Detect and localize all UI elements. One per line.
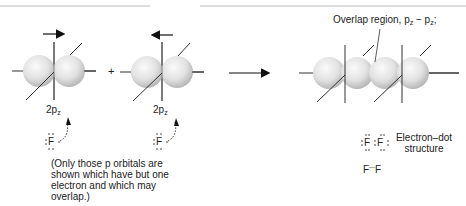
- atom-2-orbital: [120, 35, 204, 101]
- orbital-label-atom-2: 2pz: [153, 104, 168, 116]
- plus-sign: +: [108, 65, 114, 77]
- electron-dot-caption: Electron–dot structure: [394, 132, 454, 154]
- atom-1-orbital: [12, 34, 96, 100]
- note-line: (Only those p orbitals are: [51, 158, 181, 169]
- note-line: shown which have but one: [51, 169, 181, 180]
- electron-dot-f-right: F: [377, 137, 383, 148]
- orbital-label-atom-1: 2pz: [46, 104, 61, 116]
- overlap-leader-line: [375, 29, 380, 62]
- explanatory-note: (Only those p orbitals are shown which h…: [51, 158, 181, 202]
- molecule-overlap-orbitals: [299, 29, 459, 103]
- overlap-region-label: Overlap region, pz − pz;: [333, 14, 436, 26]
- note-line: overlap.): [51, 191, 181, 202]
- element-symbol-atom-2: F: [156, 136, 162, 147]
- note-line: electron and which may: [51, 180, 181, 191]
- element-symbol-atom-1: F: [48, 136, 54, 147]
- electron-dot-f-left: F: [364, 137, 370, 148]
- curved-arrow-icon: [66, 117, 71, 125]
- bond-formula: F—F: [363, 164, 381, 175]
